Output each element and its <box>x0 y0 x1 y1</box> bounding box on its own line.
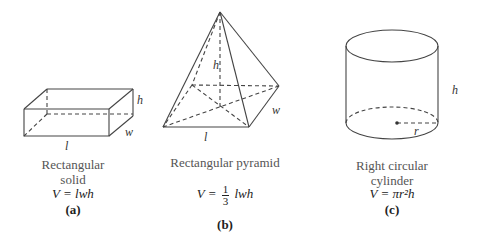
rectangular-solid-drawing <box>24 89 133 136</box>
caption-line: Right circular <box>337 158 447 173</box>
cylinder-drawing <box>346 30 438 139</box>
tag-b: (b) <box>150 217 300 233</box>
caption-rectangular-solid: Rectangular solid <box>18 157 128 187</box>
formula-right: lwh <box>234 186 253 201</box>
fraction: 1 3 <box>222 184 230 207</box>
label-w-b: w <box>272 103 280 117</box>
tag-a: (a) <box>18 202 128 218</box>
formula-rectangular-pyramid: V = 1 3 lwh <box>150 184 300 207</box>
label-h-a: h <box>137 93 143 107</box>
fraction-denominator: 3 <box>222 196 230 207</box>
formula-rectangular-solid: V = lwh <box>18 186 128 202</box>
formula-left: V = <box>197 186 217 201</box>
caption-line: solid <box>18 172 128 187</box>
label-h-c: h <box>452 83 458 97</box>
caption-cylinder: Right circular cylinder <box>337 158 447 188</box>
caption-rectangular-pyramid: Rectangular pyramid <box>150 155 300 170</box>
label-l-a: l <box>65 139 69 153</box>
tag-c: (c) <box>337 202 447 218</box>
caption-line: Rectangular <box>18 157 128 172</box>
label-r-c: r <box>414 124 419 138</box>
center-dot <box>395 121 399 125</box>
label-l-b: l <box>204 130 208 144</box>
label-h-b: h <box>213 58 219 72</box>
rectangular-pyramid-drawing <box>163 12 279 127</box>
label-w-a: w <box>125 125 133 139</box>
caption-line: Rectangular pyramid <box>150 155 300 170</box>
formula-cylinder: V = πr²h <box>337 186 447 202</box>
